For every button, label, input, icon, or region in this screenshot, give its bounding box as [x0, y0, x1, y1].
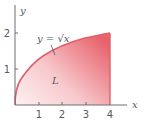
- chart-figure: 1 2 3 4 2 1 y x y = √x L: [0, 0, 144, 125]
- y-tick-label-2: 2: [4, 28, 10, 39]
- y-axis-label: y: [19, 5, 26, 16]
- x-tick-label-3: 3: [83, 109, 89, 120]
- x-axis-label: x: [132, 99, 138, 110]
- function-label: y = √x: [36, 33, 70, 44]
- x-tick-label-2: 2: [59, 109, 65, 120]
- x-tick-label-1: 1: [36, 109, 42, 120]
- y-tick-label-1: 1: [4, 64, 10, 75]
- x-tick-label-4: 4: [107, 109, 113, 120]
- region-label: L: [51, 75, 59, 86]
